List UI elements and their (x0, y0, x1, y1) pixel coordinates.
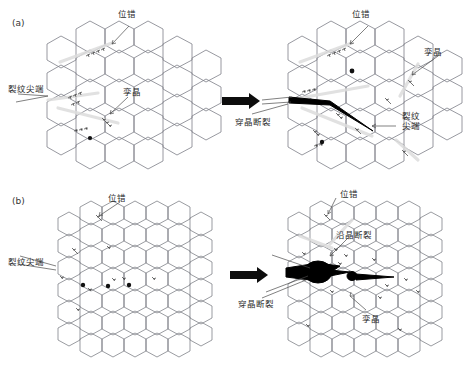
label-twin-b-right: 孪晶 (362, 315, 380, 324)
label-transgranular-fracture-b: 穿晶断裂 (238, 300, 274, 309)
figure-canvas: (a) (0, 0, 466, 381)
label-intergranular-fracture-b: 沿晶断裂 (336, 231, 372, 240)
label-dislocation-b-right: 位错 (340, 190, 358, 199)
panel-b-right-grain-structure (0, 0, 466, 381)
